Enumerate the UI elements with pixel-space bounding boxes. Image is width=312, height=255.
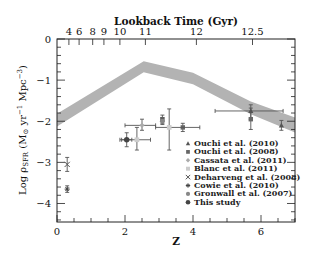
- y-tick-label: −4: [36, 198, 51, 209]
- axis-ticks: 02460−1−2−3−4468910111212.5: [36, 26, 295, 237]
- x-tick-label: 6: [258, 226, 264, 237]
- legend: Ouchi et al. (2010)Ouchi et al. (2008)Ca…: [186, 138, 301, 207]
- y-axis-title: Log ρSFR (M⊙ yr−1 Mpc−3): [16, 65, 30, 195]
- square-marker: [167, 125, 172, 130]
- series-cowie-et-al-2010: [65, 186, 70, 193]
- x-marker: [186, 175, 190, 179]
- top-tick-label: 4: [66, 26, 72, 37]
- series-this-study: [122, 133, 132, 147]
- x-tick-label: 4: [190, 226, 196, 237]
- asterisk-marker: [186, 183, 190, 187]
- diamond-marker: [186, 158, 190, 162]
- circle-marker: [186, 192, 190, 196]
- top-tick-label: 11: [139, 26, 152, 37]
- x-tick-label: 2: [122, 226, 128, 237]
- band-area: [57, 61, 295, 132]
- circle-marker: [124, 137, 129, 142]
- legend-item: This study: [186, 197, 241, 207]
- sfrd-chart: 02460−1−2−3−4468910111212.5 Ouchi et al.…: [0, 0, 312, 255]
- circle-marker: [186, 200, 191, 205]
- square-marker: [249, 117, 253, 121]
- square-marker: [186, 167, 190, 171]
- y-tick-label: 0: [45, 34, 51, 45]
- top-tick-label: 12.5: [241, 26, 263, 37]
- triangle-marker: [186, 141, 190, 145]
- top-tick-label: 6: [76, 26, 82, 37]
- y-tick-label: −3: [36, 157, 51, 168]
- top-tick-label: 12: [190, 26, 203, 37]
- circle-marker: [160, 119, 165, 124]
- series-ouchi-et-al-2008: [160, 108, 253, 131]
- y-tick-label: −2: [36, 116, 51, 127]
- series-deharveng-et-al-2008: [65, 157, 70, 171]
- diamond-marker: [139, 123, 144, 128]
- top-tick-label: 10: [114, 26, 127, 37]
- square-marker: [135, 137, 140, 142]
- square-marker: [186, 150, 190, 154]
- asterisk-marker: [65, 187, 70, 192]
- series-cassata-et-al-2011: [125, 119, 156, 130]
- top-tick-label: 9: [101, 26, 107, 37]
- sfrd-band: [57, 61, 295, 132]
- top-tick-label: 8: [90, 26, 96, 37]
- top-axis-title: Lookback Time (Gyr): [114, 15, 238, 27]
- y-tick-label: −1: [36, 75, 51, 86]
- x-axis-title: z: [172, 235, 180, 247]
- x-tick-label: 0: [54, 226, 60, 237]
- legend-label: This study: [194, 197, 241, 207]
